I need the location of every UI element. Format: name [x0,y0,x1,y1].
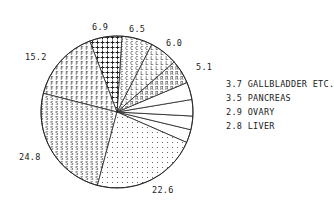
slice-label: 15.2 [25,52,47,62]
slice-label: 5.1 [196,62,212,72]
slice-label: 6.5 [129,24,145,34]
slice-label: 22.6 [152,185,174,195]
slice-label: 6.0 [166,38,182,48]
pie-slices [41,36,193,188]
slice-label: 2.9 OVARY [226,107,275,117]
slice-label: 2.8 LIVER [226,121,275,131]
slice-label: 24.8 [19,152,41,162]
slice-label: 3.7 GALLBLADDER ETC. [226,79,334,89]
slice-label: 6.9 [92,22,108,32]
slice-label: 3.5 PANCREAS [226,93,291,103]
pie-chart: R L C F S 2.8 LIVER2.9 OVARY3.5 PANCREAS… [0,0,334,209]
